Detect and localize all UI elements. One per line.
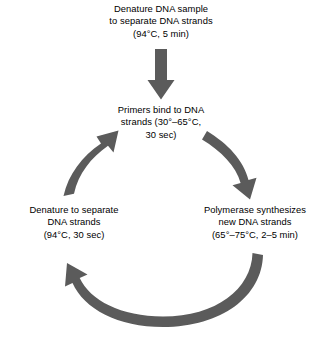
- pcr-cycle-diagram: Denature DNA sample to separate DNA stra…: [0, 0, 323, 340]
- arrow-bottom-curved-icon: [65, 253, 263, 327]
- step-label-denature-initial: Denature DNA sample to separate DNA stra…: [81, 3, 241, 40]
- step-label-primers-bind: Primers bind to DNA strands (30°–65°C, 3…: [93, 104, 229, 141]
- arrow-entry-down-icon: [148, 49, 175, 100]
- step-label-denature-cycle: Denature to separate DNA strands (94°C, …: [8, 204, 140, 241]
- arrow-layer: [0, 0, 323, 340]
- step-label-polymerase: Polymerase synthesizes new DNA strands (…: [188, 204, 322, 241]
- arrow-right-curved-icon: [202, 131, 257, 200]
